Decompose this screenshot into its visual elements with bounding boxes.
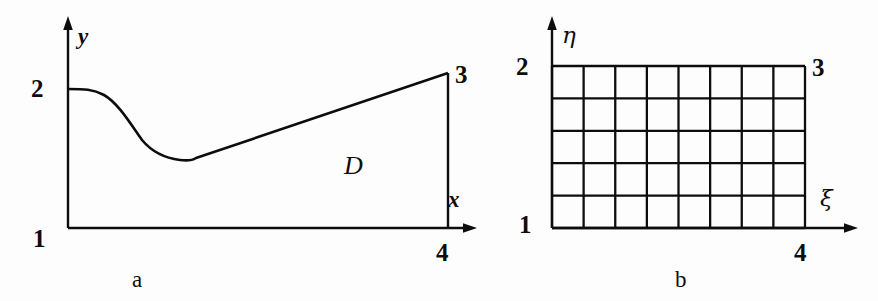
panel-b-drawing [500,0,878,301]
panel-b-label-2: 2 [516,54,529,79]
x-axis-group [68,223,477,233]
domain-label-D: D [344,153,363,179]
xi-axis-label: ξ [820,187,833,210]
panel-a-label-2: 2 [31,76,44,101]
panel-b-label-4: 4 [794,240,807,265]
top-curve-boundary [68,73,448,160]
panel-b-label-1: 1 [519,212,532,237]
figure-container: 2 1 3 4 y x D a [0,0,878,301]
eta-axis-label: η [562,24,576,47]
y-axis-group [63,16,73,228]
panel-a-caption: a [132,268,142,291]
panel-a-label-4: 4 [436,240,449,265]
x-axis-label: x [448,188,460,211]
panel-b-label-3: 3 [812,55,825,80]
panel-a-label-3: 3 [455,62,468,87]
panel-a-physical-domain: 2 1 3 4 y x D a [0,0,500,301]
panel-a-drawing [0,0,500,301]
arrow-right-icon [463,223,477,233]
arrow-up-icon [547,16,557,30]
y-axis-label: y [78,25,88,48]
panel-b-computational-domain: 2 1 3 4 η ξ b [500,0,878,301]
arrow-up-icon [63,16,73,30]
panel-a-label-1: 1 [33,226,46,251]
arrow-right-icon [844,223,858,233]
computational-grid [552,66,805,228]
panel-b-caption: b [675,268,687,291]
